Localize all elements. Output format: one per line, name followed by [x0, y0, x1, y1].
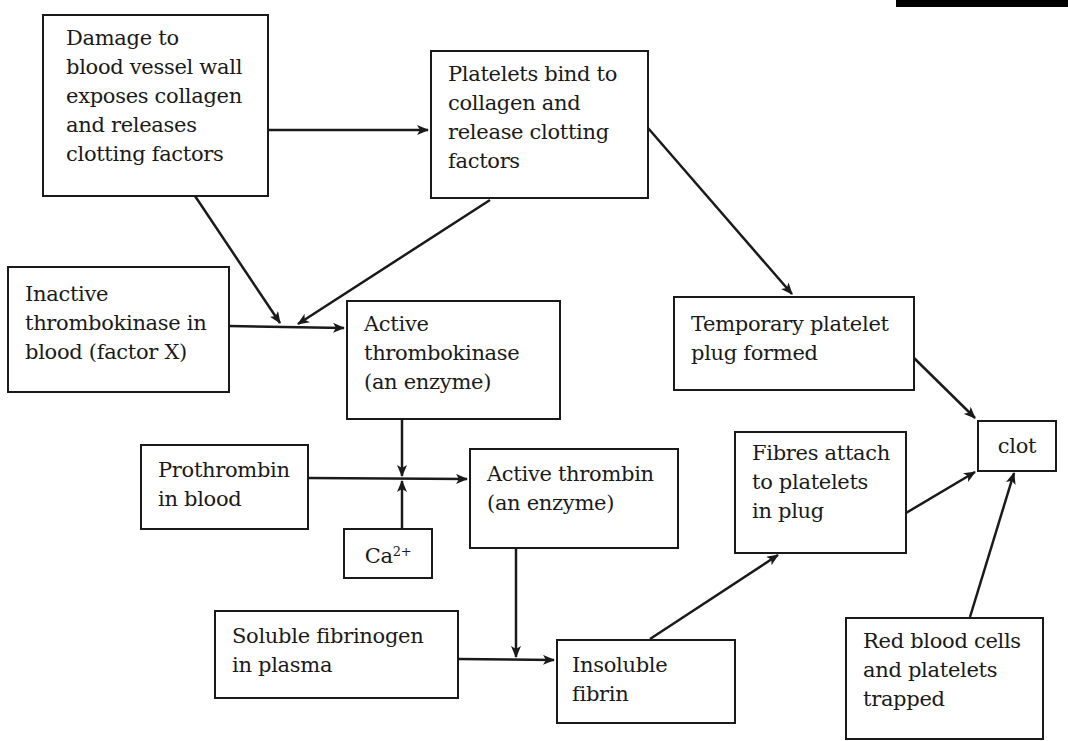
calcium-base: Ca [365, 544, 393, 568]
node-text: Inactive [25, 280, 228, 309]
node-text: blood vessel wall [66, 53, 267, 82]
node-text: collagen and [448, 89, 647, 118]
node-active-thrombokinase: Active thrombokinase (an enzyme) [346, 300, 561, 420]
edge-fibres-to-clot [906, 472, 975, 513]
edge-fibrinogen-to-fibrin [458, 659, 554, 660]
node-calcium: Ca2+ [343, 528, 433, 579]
node-text: fibrin [572, 680, 734, 709]
node-text: (an enzyme) [364, 368, 559, 397]
node-text: (an enzyme) [487, 489, 677, 518]
node-text: trapped [863, 685, 1042, 714]
node-text: thrombokinase in [25, 309, 228, 338]
node-text: in blood [158, 485, 307, 514]
node-fibres-attach: Fibres attach to platelets in plug [734, 431, 907, 554]
node-inactive-thrombokinase: Inactive thrombokinase in blood (factor … [7, 266, 230, 393]
node-text: and platelets [863, 656, 1042, 685]
edge-plug-to-clot [914, 358, 975, 418]
node-text: blood (factor X) [25, 338, 228, 367]
node-clot: clot [977, 420, 1057, 472]
node-text: plug formed [691, 339, 913, 368]
node-text: Soluble fibrinogen [232, 622, 457, 651]
calcium-charge: 2+ [393, 544, 412, 559]
node-text: factors [448, 147, 647, 176]
node-platelets-bind: Platelets bind to collagen and release c… [430, 50, 649, 199]
calcium-label: Ca2+ [365, 537, 412, 571]
node-text: in plasma [232, 651, 457, 680]
edge-inactive-to-active-thrombokinase [229, 326, 344, 328]
node-text: Temporary platelet [691, 310, 913, 339]
node-text: thrombokinase [364, 339, 559, 368]
node-insoluble-fibrin: Insoluble fibrin [556, 639, 736, 724]
node-damage: Damage to blood vessel wall exposes coll… [42, 14, 269, 197]
node-active-thrombin: Active thrombin (an enzyme) [469, 448, 679, 549]
node-text: Damage to [66, 24, 267, 53]
node-text: Red blood cells [863, 627, 1042, 656]
node-text: Insoluble [572, 651, 734, 680]
node-text: clotting factors [66, 140, 267, 169]
node-text: clot [998, 432, 1036, 461]
node-text: Fibres attach [752, 439, 905, 468]
node-text: to platelets [752, 468, 905, 497]
edge-prothrombin-to-thrombin [308, 478, 467, 479]
node-prothrombin: Prothrombin in blood [140, 444, 309, 530]
node-text: and releases [66, 111, 267, 140]
node-red-blood-cells: Red blood cells and platelets trapped [845, 617, 1044, 740]
edge-rbc-to-clot [970, 473, 1014, 617]
node-soluble-fibrinogen: Soluble fibrinogen in plasma [214, 610, 459, 699]
node-text: Platelets bind to [448, 60, 647, 89]
node-text: exposes collagen [66, 82, 267, 111]
node-text: in plug [752, 497, 905, 526]
node-text: Active thrombin [487, 460, 677, 489]
edge-fibrin-to-fibres [650, 555, 778, 639]
node-text: Active [364, 310, 559, 339]
edge-platelets-to-plug [648, 128, 792, 294]
node-text: Prothrombin [158, 456, 307, 485]
node-text: release clotting [448, 118, 647, 147]
node-temporary-plug: Temporary platelet plug formed [673, 296, 915, 391]
